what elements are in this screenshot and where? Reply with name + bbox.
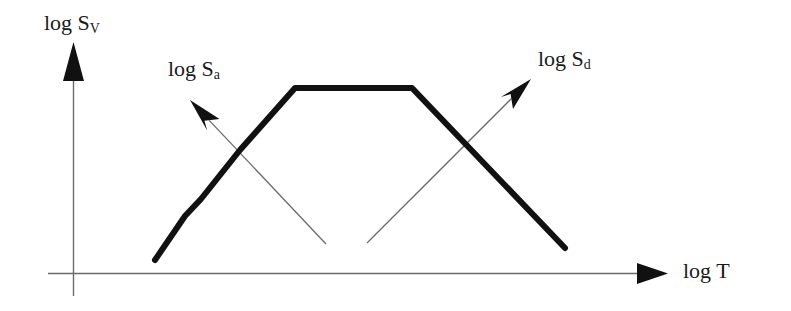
log-sd-label-text: log S bbox=[538, 46, 584, 71]
x-axis-arrowhead bbox=[637, 263, 668, 284]
x-axis-label-text: log T bbox=[683, 258, 730, 283]
y-axis-label: log SV bbox=[44, 12, 100, 36]
y-axis-arrowhead bbox=[63, 42, 84, 81]
log-sd-label: log Sd bbox=[538, 48, 591, 72]
tripartite-spectrum-figure: log SV log Sa log Sd log T bbox=[0, 0, 791, 311]
log-sd-arrow-group bbox=[367, 79, 531, 243]
log-sa-label-text: log S bbox=[168, 56, 214, 81]
axes-group bbox=[48, 42, 668, 296]
y-axis-label-text: log S bbox=[44, 10, 90, 35]
log-sa-arrow-shaft bbox=[209, 120, 326, 244]
log-sd-label-subscript: d bbox=[584, 57, 591, 72]
figure-canvas bbox=[0, 0, 791, 311]
y-axis-label-subscript: V bbox=[90, 21, 100, 36]
spectrum-curve bbox=[155, 88, 565, 260]
log-sa-arrow-group bbox=[190, 100, 326, 244]
log-sa-label: log Sa bbox=[168, 58, 220, 82]
x-axis-label: log T bbox=[683, 260, 730, 284]
log-sa-label-subscript: a bbox=[214, 67, 220, 82]
